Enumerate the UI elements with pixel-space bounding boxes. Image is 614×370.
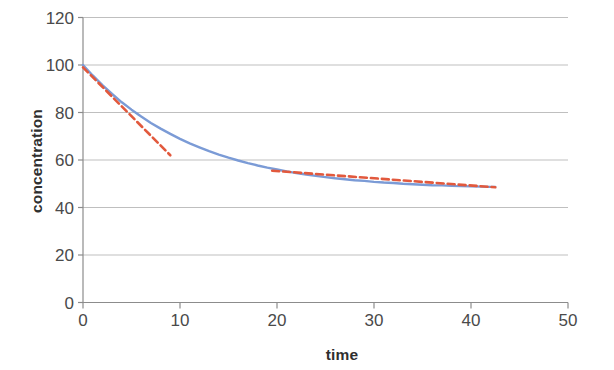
series-1-solid [83, 65, 495, 187]
x-axis-title-text: time [326, 346, 359, 364]
plot-area [0, 0, 614, 370]
series-3-dashed [272, 171, 495, 188]
x-axis-title: time [0, 346, 614, 364]
series-2-dashed [83, 67, 170, 155]
gridlines [83, 18, 568, 303]
data-series-layer [83, 65, 495, 187]
tick-marks [78, 18, 568, 309]
chart-container: concentration 120 100 80 60 40 20 0 0 10… [0, 0, 614, 370]
